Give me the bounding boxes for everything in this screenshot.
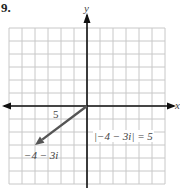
vector-length-label: 5	[53, 108, 59, 120]
x-axis-label: x	[175, 99, 180, 111]
y-axis-label: y	[84, 2, 89, 14]
x-axis-left-arrow-icon	[2, 103, 11, 110]
point-label: −4 − 3i	[24, 149, 58, 161]
vector-line	[42, 106, 87, 140]
y-axis-up-arrow-icon	[84, 13, 91, 23]
modulus-annotation: |−4 − 3i| = 5	[93, 130, 154, 142]
modulus-text: |−4 − 3i| = 5	[94, 130, 153, 142]
